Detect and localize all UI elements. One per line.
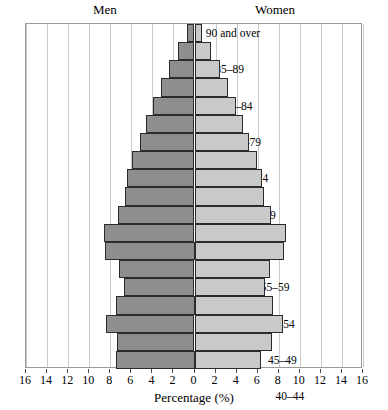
bar-male-10 xyxy=(118,206,195,224)
bar-female-1 xyxy=(195,42,212,60)
bar-male-11 xyxy=(104,224,195,242)
x-tick-label-6: 4 xyxy=(148,373,154,388)
bar-rows: 90 and over85–8980–8475–7970–7465–6960–6… xyxy=(26,24,361,367)
bar-female-10 xyxy=(195,206,272,224)
x-tick-label-12: 8 xyxy=(275,373,281,388)
bar-male-7 xyxy=(132,151,194,169)
bar-female-7 xyxy=(195,151,257,169)
age-group-row: 20–24 xyxy=(26,278,361,296)
bar-male-16 xyxy=(106,315,194,333)
age-group-row: 10–14 xyxy=(26,315,361,333)
x-tick-label-0: 16 xyxy=(19,373,31,388)
x-tick-label-5: 6 xyxy=(127,373,133,388)
x-tick-label-14: 12 xyxy=(314,373,326,388)
age-group-row: 80–84 xyxy=(26,60,361,78)
bar-male-2 xyxy=(169,60,194,78)
x-tick-label-9: 2 xyxy=(212,373,218,388)
age-group-row: 0–4 xyxy=(26,351,361,369)
bar-male-4 xyxy=(153,97,194,115)
bar-male-9 xyxy=(125,187,195,205)
x-tick-label-4: 8 xyxy=(106,373,112,388)
x-tick-label-15: 14 xyxy=(335,373,347,388)
bar-male-17 xyxy=(117,333,195,351)
x-axis-title: Percentage (%) xyxy=(0,390,388,406)
bar-male-8 xyxy=(127,169,194,187)
age-group-row: 45–49 xyxy=(26,187,361,205)
age-group-row: 75–79 xyxy=(26,78,361,96)
bar-female-6 xyxy=(195,133,250,151)
bar-female-9 xyxy=(195,187,265,205)
bar-female-17 xyxy=(195,333,273,351)
bar-female-14 xyxy=(195,278,266,296)
x-tick-label-3: 10 xyxy=(82,373,94,388)
population-pyramid-chart: Men Women 90 and over85–8980–8475–7970–7… xyxy=(0,0,388,410)
legend-label-men: Men xyxy=(93,2,117,18)
bar-female-0 xyxy=(195,24,202,42)
bar-female-8 xyxy=(195,169,262,187)
age-group-row: 55–59 xyxy=(26,151,361,169)
bar-female-12 xyxy=(195,242,285,260)
x-axis: 1614121086420246810121416 xyxy=(25,369,362,385)
age-group-row: 90 and over xyxy=(26,24,361,42)
age-group-row: 35–39 xyxy=(26,224,361,242)
bar-female-5 xyxy=(195,115,243,133)
bar-male-0 xyxy=(187,24,194,42)
x-tick-label-13: 10 xyxy=(293,373,305,388)
bar-male-15 xyxy=(116,296,195,314)
legend-label-women: Women xyxy=(255,2,295,18)
bar-female-18 xyxy=(195,351,261,369)
gender-legend: Men Women xyxy=(0,2,388,22)
age-group-row: 50–54 xyxy=(26,169,361,187)
gridline-16 xyxy=(363,24,364,367)
x-tick-label-11: 6 xyxy=(254,373,260,388)
bar-male-12 xyxy=(105,242,195,260)
x-tick-label-1: 14 xyxy=(40,373,52,388)
x-tick-label-10: 4 xyxy=(233,373,239,388)
x-tick-label-8: 0 xyxy=(191,373,197,388)
bar-female-13 xyxy=(195,260,271,278)
bar-female-11 xyxy=(195,224,287,242)
x-tick-label-2: 12 xyxy=(61,373,73,388)
age-group-row: 85–89 xyxy=(26,42,361,60)
age-group-row: 60–64 xyxy=(26,133,361,151)
plot-area: 90 and over85–8980–8475–7970–7465–6960–6… xyxy=(25,23,362,368)
age-group-row: 65–69 xyxy=(26,115,361,133)
bar-male-6 xyxy=(140,133,195,151)
bar-female-15 xyxy=(195,296,274,314)
age-group-row: 30–34 xyxy=(26,242,361,260)
bar-male-1 xyxy=(178,42,195,60)
bar-male-13 xyxy=(119,260,195,278)
bar-female-16 xyxy=(195,315,283,333)
age-group-row: 5–9 xyxy=(26,333,361,351)
bar-male-18 xyxy=(116,351,195,369)
bar-male-3 xyxy=(161,78,195,96)
age-group-row: 70–74 xyxy=(26,97,361,115)
age-group-row: 40–44 xyxy=(26,206,361,224)
bar-male-5 xyxy=(146,115,194,133)
age-group-row: 15–19 xyxy=(26,296,361,314)
x-tick-label-16: 16 xyxy=(356,373,368,388)
age-group-row: 25–29 xyxy=(26,260,361,278)
x-tick-label-7: 2 xyxy=(169,373,175,388)
bar-female-4 xyxy=(195,97,236,115)
bar-female-3 xyxy=(195,78,229,96)
bar-male-14 xyxy=(124,278,195,296)
age-group-label: 90 and over xyxy=(206,28,260,40)
bar-female-2 xyxy=(195,60,220,78)
